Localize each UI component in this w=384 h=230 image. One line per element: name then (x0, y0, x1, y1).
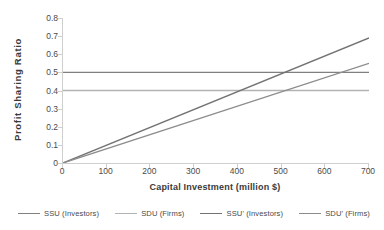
series-line (63, 38, 369, 163)
legend-line-swatch (18, 213, 40, 214)
series-lines (63, 18, 369, 163)
series-line (63, 63, 369, 163)
y-tick-mark (58, 91, 62, 92)
x-tick-mark (149, 164, 150, 168)
legend-item-label: SSU' (Investors) (226, 209, 283, 218)
y-tick-label: 0.8 (32, 13, 58, 23)
y-tick-mark (58, 54, 62, 55)
y-tick-label: 0.2 (32, 122, 58, 132)
y-tick-mark (58, 72, 62, 73)
y-tick-label: 0.4 (32, 86, 58, 96)
x-tick-mark (281, 164, 282, 168)
legend-item-label: SDU' (Firms) (325, 209, 370, 218)
legend-line-swatch (299, 213, 321, 214)
y-axis-title: Profit Sharing Ratio (12, 10, 23, 170)
x-tick-label: 700 (348, 166, 384, 176)
x-tick-mark (106, 164, 107, 168)
y-tick-mark (58, 109, 62, 110)
x-tick-mark (324, 164, 325, 168)
x-tick-mark (62, 164, 63, 168)
x-axis-title: Capital Investment (million $) (62, 182, 368, 192)
legend-item-label: SSU (Investors) (44, 209, 99, 218)
x-tick-mark (237, 164, 238, 168)
y-tick-label: 0.3 (32, 104, 58, 114)
legend-item[interactable]: SDU' (Firms) (299, 209, 370, 218)
legend-line-swatch (200, 213, 222, 214)
plot-area (62, 18, 369, 164)
x-axis-tick-labels: 0100200300400500600700 (62, 166, 368, 180)
y-tick-mark (58, 18, 62, 19)
y-tick-label: 0.7 (32, 31, 58, 41)
x-tick-mark (193, 164, 194, 168)
legend-item-label: SDU (Firms) (141, 209, 184, 218)
chart-legend: SSU (Investors)SDU (Firms)SSU' (Investor… (18, 205, 370, 221)
legend-item[interactable]: SSU' (Investors) (200, 209, 283, 218)
legend-item[interactable]: SSU (Investors) (18, 209, 99, 218)
y-tick-mark (58, 145, 62, 146)
x-tick-mark (368, 164, 369, 168)
y-tick-label: 0.1 (32, 140, 58, 150)
y-tick-label: 0.5 (32, 67, 58, 77)
y-axis-tick-labels: 00.10.20.30.40.50.60.70.8 (26, 18, 58, 163)
legend-item[interactable]: SDU (Firms) (115, 209, 184, 218)
y-tick-label: 0.6 (32, 49, 58, 59)
chart-container: Profit Sharing Ratio 00.10.20.30.40.50.6… (0, 0, 384, 230)
legend-line-swatch (115, 213, 137, 214)
y-tick-mark (58, 127, 62, 128)
y-tick-mark (58, 36, 62, 37)
